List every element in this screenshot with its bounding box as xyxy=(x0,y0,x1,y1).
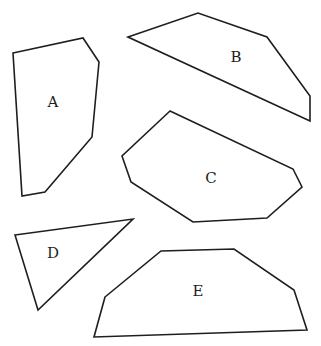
shapes-layer xyxy=(0,0,321,346)
label-d: D xyxy=(47,246,59,261)
polygon-a xyxy=(13,38,99,196)
polygon-diagram: A B C D E xyxy=(0,0,321,346)
label-e: E xyxy=(193,284,204,299)
label-a: A xyxy=(48,95,59,110)
label-b: B xyxy=(230,50,241,65)
label-c: C xyxy=(205,171,216,186)
polygon-b xyxy=(128,13,310,121)
polygon-c xyxy=(122,111,302,222)
